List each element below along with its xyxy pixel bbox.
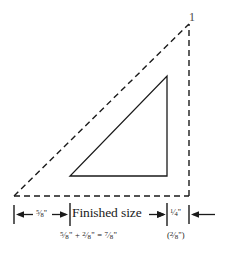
left-seam-allowance-label: 5⁄8" bbox=[36, 209, 47, 218]
finished-triangle-outline bbox=[70, 76, 167, 176]
eq-term3-unit: " bbox=[113, 230, 117, 240]
right-seam-alt-fraction-label: (2⁄8") bbox=[167, 231, 185, 241]
right-seam-alt-unit: " bbox=[178, 230, 181, 240]
right-seam-allowance-label: 1⁄4" bbox=[170, 208, 181, 217]
seam-allowance-diagram: Finished size 5⁄8" 1⁄4" 5⁄8" + 2⁄8" = 7⁄… bbox=[0, 0, 225, 259]
arrow-head-left-seam-right bbox=[60, 211, 68, 217]
finished-size-triangle bbox=[70, 76, 167, 176]
cut-size-triangle bbox=[14, 24, 189, 196]
seam-allowance-equation: 5⁄8" + 2⁄8" = 7⁄8" bbox=[60, 231, 117, 241]
eq-term2-unit: " bbox=[91, 230, 95, 240]
cut-triangle-hypotenuse bbox=[14, 24, 189, 196]
arrow-head-right-seam-left bbox=[158, 211, 166, 217]
right-seam-unit: " bbox=[178, 208, 181, 217]
arrow-head-left-seam-left bbox=[16, 211, 24, 217]
apex-mark-label: 1 bbox=[189, 11, 195, 23]
eq-plus-operator: + bbox=[75, 230, 80, 240]
left-seam-unit: " bbox=[44, 209, 47, 218]
arrow-head-right-seam-right bbox=[191, 211, 199, 217]
finished-size-label: Finished size bbox=[72, 206, 142, 220]
eq-term1-unit: " bbox=[69, 230, 73, 240]
eq-equals-operator: = bbox=[97, 230, 102, 240]
diagram-canvas bbox=[0, 0, 225, 259]
